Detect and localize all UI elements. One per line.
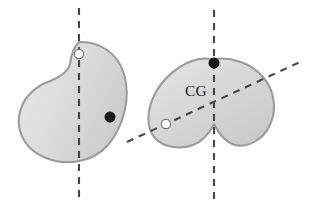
right-suspension-point-white-icon (161, 119, 170, 128)
left-reference-point-black-icon (105, 112, 115, 122)
right-suspension-point-black-icon (209, 58, 219, 68)
left-object-group (19, 8, 127, 198)
bean-shape-outline (19, 42, 127, 162)
figure-container: CG (0, 0, 309, 205)
right-object-group: CG (127, 10, 300, 200)
left-suspension-point-white-icon (74, 49, 83, 58)
cg-diagram-svg: CG (0, 0, 309, 205)
cg-label: CG (185, 82, 207, 99)
